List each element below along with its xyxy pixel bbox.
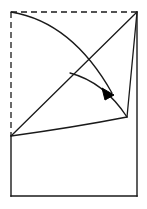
figure-canvas bbox=[0, 0, 147, 209]
lower-arc-curve bbox=[11, 117, 127, 136]
upper-arc-curve bbox=[11, 12, 112, 93]
middle-arc-curve bbox=[70, 73, 127, 117]
line-diagram bbox=[0, 0, 147, 209]
notch-riser-line bbox=[127, 12, 137, 117]
